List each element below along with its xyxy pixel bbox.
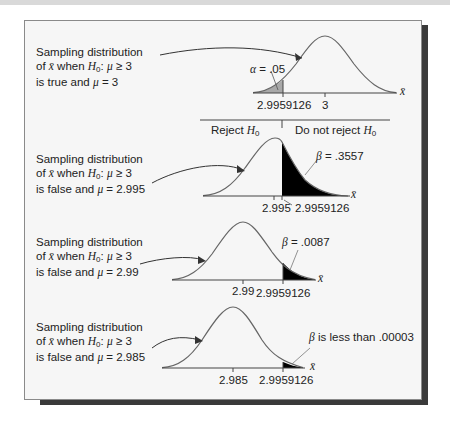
tick-label-mean-2: 2.995 [262, 202, 291, 216]
do-not-reject-region-label: Do not reject H0 [295, 124, 376, 141]
beta-region-3 [283, 263, 315, 280]
beta-label-4: β is less than .00003 [309, 331, 414, 345]
tick-label-critical-2: 2.9959126 [295, 202, 349, 216]
curve-3 [172, 222, 315, 280]
caption-3-line3: is false and μ = 2.99 [36, 266, 143, 280]
tick-label-critical-4: 2.9959126 [259, 374, 313, 388]
caption-2: Sampling distribution of x̄ when H0: μ ≥… [36, 153, 145, 197]
tick-label-mean-1: 3 [322, 99, 328, 113]
tick-label-critical-1: 2.9959126 [257, 99, 311, 113]
arrow-4 [152, 338, 200, 348]
caption-4-line3: is false and μ = 2.985 [36, 351, 145, 365]
axis-label-1: x̄ [400, 85, 405, 99]
arrow-1 [160, 48, 302, 58]
reject-region-label: Reject H0 [211, 124, 260, 141]
beta-leader-3 [290, 250, 298, 270]
axis-label-4: x̄ [310, 360, 315, 374]
beta-leader-4 [292, 348, 310, 364]
caption-1: Sampling distribution of x̄ when H0: μ ≥… [36, 46, 143, 90]
caption-2-line1: Sampling distribution [36, 153, 145, 167]
alpha-label: α = .05 [250, 63, 285, 77]
distribution-2 [152, 138, 350, 205]
beta-label-2: β = .3557 [316, 150, 364, 164]
caption-3-line1: Sampling distribution [36, 236, 143, 250]
caption-2-line2: of x̄ when H0: μ ≥ 3 [36, 167, 145, 184]
distribution-4 [152, 307, 310, 372]
caption-4-line2: of x̄ when H0: μ ≥ 3 [36, 335, 145, 352]
caption-2-line3: is false and μ = 2.995 [36, 183, 145, 197]
beta-label-3: β = .0087 [282, 236, 330, 250]
caption-1-line3: is true and μ = 3 [36, 76, 143, 90]
axis-label-3: x̄ [318, 272, 323, 286]
tick-label-critical-3: 2.9959126 [256, 287, 310, 301]
caption-1-line2: of x̄ when H0: μ ≥ 3 [36, 60, 143, 77]
tick-label-mean-3: 2.99 [232, 285, 254, 299]
distribution-3 [140, 222, 316, 284]
caption-3-line2: of x̄ when H0: μ ≥ 3 [36, 250, 143, 267]
caption-4-line1: Sampling distribution [36, 321, 145, 335]
curve-2 [203, 138, 348, 196]
arrow-2 [152, 166, 243, 183]
caption-1-line1: Sampling distribution [36, 46, 143, 60]
axis-label-2: x̄ [351, 188, 356, 202]
arrow-3 [140, 257, 203, 264]
caption-4: Sampling distribution of x̄ when H0: μ ≥… [36, 321, 145, 365]
caption-3: Sampling distribution of x̄ when H0: μ ≥… [36, 236, 143, 280]
tick-label-mean-4: 2.985 [219, 374, 248, 388]
